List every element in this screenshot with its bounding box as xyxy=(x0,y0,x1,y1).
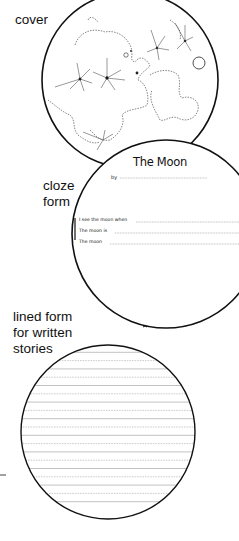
cloze-prompt-1: I see the moon when xyxy=(79,217,127,222)
label-cloze-line2: form xyxy=(43,194,70,210)
cloze-prompt-3: The moon xyxy=(79,239,102,244)
cloze-title: The Moon xyxy=(133,155,187,169)
cloze-by-label: by xyxy=(111,174,117,180)
label-cloze-line1: cloze xyxy=(43,178,75,194)
cloze-prompt-2: The moon is xyxy=(79,228,107,233)
label-lined-line1: lined form xyxy=(13,309,72,325)
label-lined-line2: for written xyxy=(13,325,72,341)
lined-form-moon xyxy=(15,344,200,519)
label-lined-line3: stories xyxy=(13,341,53,357)
worksheet-drawings xyxy=(0,0,239,541)
label-cover: cover xyxy=(15,12,48,28)
